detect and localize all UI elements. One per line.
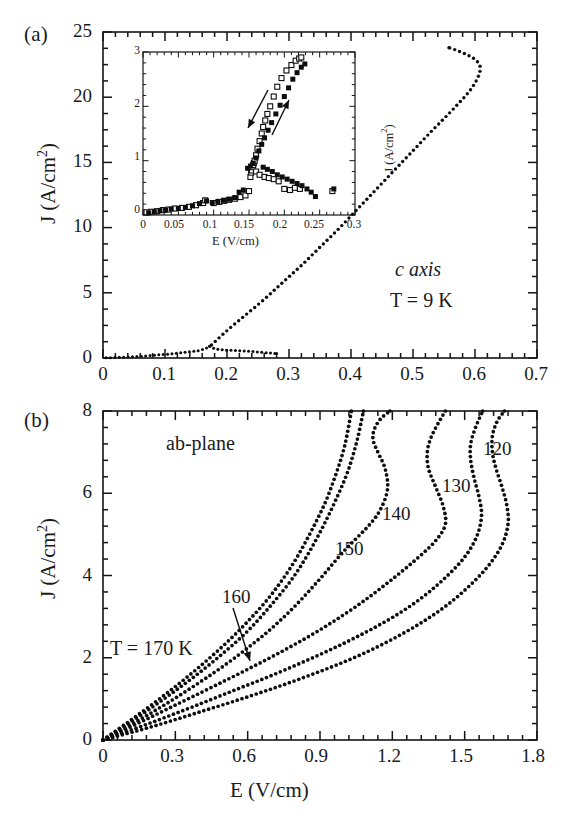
inset-xtick-0.25: 0.25: [296, 218, 332, 230]
panel-b-plane-annotation: ab-plane: [166, 432, 235, 455]
inset-xtick-0.3: 0.3: [338, 218, 370, 230]
inset-series-filled-squares: [146, 61, 336, 215]
panel-b-xtick-0.6: 0.6: [222, 745, 266, 767]
panel-a-xtick-0.7: 0.7: [514, 363, 558, 385]
inset-arrow-increasing: [272, 100, 289, 135]
panel-a-ytick-20: 20: [30, 85, 92, 107]
panel-b-series-130-K: [101, 409, 484, 742]
panel-a-xtick-0.3: 0.3: [266, 363, 310, 385]
inset-xtick-0.05: 0.05: [156, 218, 192, 230]
inset-y-axis-title-sup: 2: [379, 129, 389, 133]
inset-xtick-0.15: 0.15: [226, 218, 262, 230]
panel-a-y-axis-title: J (A/cm2): [34, 104, 61, 264]
panel-a-ytick-15: 15: [30, 150, 92, 172]
panel-a-xtick-0.2: 0.2: [204, 363, 248, 385]
inset-ytick-3: 3: [118, 44, 140, 56]
panel-a-y-axis-title-tail: ): [36, 143, 60, 150]
panel-b-x-axis-title: E (V/cm): [230, 778, 309, 803]
inset-sweep-arrows: [248, 90, 289, 135]
panel-b-curve-160-arrow: [233, 608, 251, 661]
panel-b-curve-label-140: 140: [382, 503, 411, 525]
panel-a-ytick-10: 10: [30, 215, 92, 237]
panel-b-y-axis-title-tail: ): [36, 518, 60, 525]
panel-a-ytick-25: 25: [30, 20, 92, 42]
panel-a-data: [105, 46, 482, 359]
panel-b-series-120-K: [101, 409, 510, 742]
panel-b-curve-label-160: 160: [222, 586, 251, 608]
figure-root: (a) J (A/cm2) 25 20 15 10 5 0 0 0.1 0.2 …: [0, 0, 583, 832]
inset-ytick-0: 0: [118, 203, 140, 215]
inset-axes: [143, 52, 355, 215]
panel-b-xtick-1.8: 1.8: [511, 745, 555, 767]
inset-xtick-0.2: 0.2: [264, 218, 296, 230]
panel-b-series-140-K: [101, 409, 447, 742]
panel-a-series-1: [208, 345, 278, 355]
panel-b-ytick-4: 4: [30, 564, 92, 586]
panel-b-xtick-0.3: 0.3: [150, 745, 194, 767]
panel-b-series-150-K: [101, 409, 392, 742]
panel-b-ytick-8: 8: [30, 399, 92, 421]
panel-b-series-170-K: [101, 409, 353, 742]
inset-series-open-squares: [144, 55, 335, 215]
inset-xtick-0: 0: [131, 218, 155, 230]
inset-y-axis-title-tail: ): [382, 124, 396, 128]
inset-xtick-0.1: 0.1: [194, 218, 226, 230]
inset-ytick-2: 2: [118, 97, 140, 109]
inset-ytick-1: 1: [118, 150, 140, 162]
panel-b-xtick-1.5: 1.5: [439, 745, 483, 767]
panel-a-series-0: [105, 345, 212, 359]
panel-a-xtick-0.4: 0.4: [328, 363, 372, 385]
panel-b-data: [101, 409, 510, 742]
panel-b-series-160-K: [101, 409, 365, 742]
inset-y-axis-title: J (A/cm2): [379, 94, 396, 204]
panel-a-xtick-0.5: 0.5: [390, 363, 434, 385]
panel-b-temperature-annotation: T = 170 K: [110, 637, 193, 660]
panel-b-y-axis-title-sup: 2: [34, 525, 50, 532]
panel-b-ytick-2: 2: [30, 646, 92, 668]
panel-a-xtick-0.6: 0.6: [452, 363, 496, 385]
panel-a-temperature-annotation: T = 9 K: [390, 289, 453, 312]
panel-a-axes: [103, 32, 537, 358]
panel-b-curve-label-150: 150: [335, 538, 364, 560]
panel-a-material-annotation: c axis: [395, 258, 441, 281]
panel-b-xtick-0: 0: [83, 745, 123, 767]
panel-a-xtick-0: 0: [83, 363, 123, 385]
panel-b-xtick-0.9: 0.9: [294, 745, 338, 767]
panel-b-axes: [103, 411, 537, 740]
inset-x-axis-title: E (V/cm): [212, 234, 259, 249]
panel-b-curve-label-120: 120: [483, 438, 512, 460]
panel-b-ytick-6: 6: [30, 481, 92, 503]
inset-arrow-decreasing: [248, 90, 268, 128]
inset-y-axis-title-text: J (A/cm: [382, 133, 396, 173]
panel-b-xtick-1.2: 1.2: [367, 745, 411, 767]
panel-a-ytick-5: 5: [30, 281, 92, 303]
panel-a-xtick-0.1: 0.1: [142, 363, 186, 385]
panel-b-curve-label-130: 130: [442, 475, 471, 497]
panel-a-material-axis-italic: c axis: [395, 258, 441, 280]
inset-data: [144, 55, 336, 215]
